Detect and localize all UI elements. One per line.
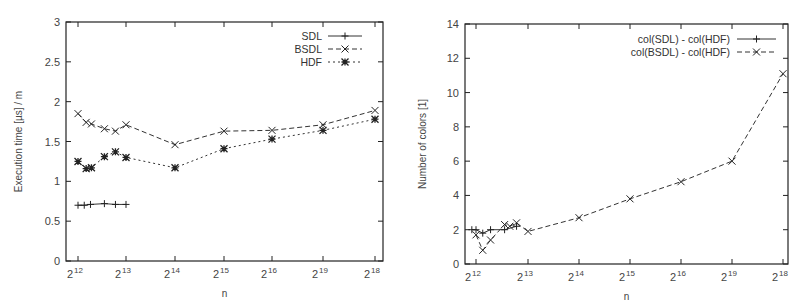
x-axis-title: n [624, 291, 630, 302]
star-marker [320, 127, 327, 134]
x-tick-base: 2 [619, 271, 625, 283]
cross-marker [123, 121, 130, 128]
x-tick-label: 219 [312, 266, 329, 280]
star-marker [172, 164, 179, 171]
legend-label: SDL [302, 30, 323, 42]
x-tick-label: 215 [619, 269, 636, 283]
cross-marker [678, 178, 685, 185]
x-tick-label: 219 [721, 269, 738, 283]
x-tick-exponent: 14 [171, 266, 180, 275]
y-tick-label: 0 [453, 258, 459, 270]
legend-label: BSDL [295, 43, 323, 55]
star-marker [88, 164, 95, 171]
x-tick-exponent: 19 [319, 266, 328, 275]
x-tick-exponent: 13 [524, 269, 533, 278]
x-tick-exponent: 18 [371, 266, 380, 275]
legend-label: col(SDL) - col(HDF) [638, 33, 730, 45]
plus-marker [101, 200, 108, 207]
cross-marker [372, 107, 379, 114]
x-tick-label: 213 [115, 266, 132, 280]
x-tick-label: 216 [670, 269, 687, 283]
star-marker [112, 148, 119, 155]
y-tick-label: 14 [447, 18, 459, 30]
legend-label: col(BSDL) - col(HDF) [631, 46, 730, 58]
x-tick-base: 2 [261, 268, 267, 280]
plus-marker [87, 201, 94, 208]
y-tick-label: 2.5 [45, 56, 60, 68]
y-tick-label: 2 [453, 224, 459, 236]
star-marker [123, 154, 130, 161]
y-tick-label: 0 [54, 255, 60, 267]
x-tick-exponent: 19 [728, 269, 737, 278]
x-axis-title: n [222, 288, 228, 299]
cross-marker [780, 70, 787, 77]
x-tick-base: 2 [721, 271, 727, 283]
x-tick-base: 2 [772, 271, 778, 283]
y-tick-label: 8 [453, 121, 459, 133]
x-tick-label: 212 [67, 266, 84, 280]
x-tick-base: 2 [568, 271, 574, 283]
y-tick-label: 3 [54, 16, 60, 28]
cross-marker [627, 195, 634, 202]
star-marker [269, 136, 276, 143]
plot-frame [465, 24, 788, 264]
series-line-1 [476, 74, 783, 251]
y-axis-title: Number of colors [1] [417, 99, 428, 189]
y-tick-label: 6 [453, 155, 459, 167]
x-tick-base: 2 [213, 268, 219, 280]
plus-marker [487, 226, 494, 233]
star-marker [221, 145, 228, 152]
y-tick-label: 0.5 [45, 215, 60, 227]
x-tick-base: 2 [465, 271, 471, 283]
cross-marker [83, 119, 90, 126]
x-tick-label: 218 [364, 266, 381, 280]
cross-marker [729, 158, 736, 165]
y-tick-label: 1.5 [45, 136, 60, 148]
x-tick-label: 218 [772, 269, 789, 283]
cross-marker [172, 141, 179, 148]
x-tick-base: 2 [312, 268, 318, 280]
x-tick-exponent: 16 [268, 266, 277, 275]
x-tick-base: 2 [115, 268, 121, 280]
star-marker [101, 153, 108, 160]
x-tick-label: 213 [517, 269, 534, 283]
cross-marker [75, 110, 82, 117]
x-tick-base: 2 [164, 268, 170, 280]
x-tick-exponent: 14 [575, 269, 584, 278]
x-tick-base: 2 [517, 271, 523, 283]
x-tick-label: 215 [213, 266, 230, 280]
x-tick-exponent: 12 [74, 266, 83, 275]
charts-canvas: 00.511.522.53212213214215216219218nExecu… [0, 0, 801, 305]
x-tick-base: 2 [67, 268, 73, 280]
y-tick-label: 2 [54, 96, 60, 108]
y-axis-title: Execution time [µs] / m [13, 91, 24, 192]
cross-marker [576, 214, 583, 221]
y-tick-label: 1 [54, 175, 60, 187]
cross-marker [479, 247, 486, 254]
y-tick-label: 10 [447, 87, 459, 99]
plus-marker [112, 201, 119, 208]
cross-marker [487, 237, 494, 244]
plus-marker [81, 202, 88, 209]
x-tick-exponent: 13 [122, 266, 131, 275]
cross-marker [112, 128, 119, 135]
x-tick-label: 216 [261, 266, 278, 280]
x-tick-exponent: 15 [626, 269, 635, 278]
plus-marker [513, 223, 520, 230]
cross-marker [525, 228, 532, 235]
star-marker [75, 158, 82, 165]
x-tick-base: 2 [364, 268, 370, 280]
x-tick-exponent: 15 [220, 266, 229, 275]
x-tick-label: 214 [164, 266, 181, 280]
plot-frame [66, 22, 383, 261]
plus-marker [75, 202, 82, 209]
legend-label: HDF [300, 56, 322, 68]
plus-marker [479, 230, 486, 237]
y-tick-label: 4 [453, 189, 459, 201]
x-tick-base: 2 [670, 271, 676, 283]
number-of-colors-chart: 02468101214212213214215216219218nNumber … [417, 18, 789, 302]
plus-marker [753, 36, 760, 43]
plus-marker [342, 33, 349, 40]
x-tick-label: 212 [465, 269, 482, 283]
star-marker [342, 59, 349, 66]
